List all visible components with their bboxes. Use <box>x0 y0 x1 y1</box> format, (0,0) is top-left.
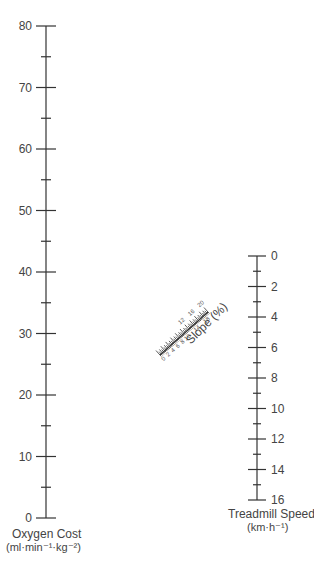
oxygen-tick-label: 50 <box>19 204 33 218</box>
oxygen-tick-label: 60 <box>19 142 33 156</box>
speed-tick-label: 4 <box>271 310 278 324</box>
speed-tick-label: 16 <box>271 493 285 507</box>
speed-tick-label: 2 <box>271 280 278 294</box>
speed-tick-label: 8 <box>271 371 278 385</box>
oxygen-tick-label: 30 <box>19 327 33 341</box>
slope-tick-label: 20 <box>196 299 205 308</box>
oxygen-tick-label: 80 <box>19 19 33 33</box>
oxygen-axis-title: Oxygen Cost <box>12 527 81 541</box>
slope-tick-label: 12 <box>177 316 186 325</box>
oxygen-axis-units: (ml·min⁻¹·kg⁻²) <box>6 541 81 554</box>
slope-tick-label: 16 <box>187 308 196 317</box>
speed-axis-units: (km·h⁻¹) <box>247 521 288 534</box>
speed-tick-label: 6 <box>271 341 278 355</box>
speed-tick-label: 12 <box>271 432 285 446</box>
speed-axis-title: Treadmill Speed <box>228 507 314 521</box>
oxygen-tick-label: 10 <box>19 450 33 464</box>
oxygen-tick-label: 20 <box>19 388 33 402</box>
speed-tick-label: 14 <box>271 463 285 477</box>
speed-tick-label: 0 <box>271 249 278 263</box>
oxygen-tick-label: 40 <box>19 265 33 279</box>
oxygen-tick-label: 0 <box>25 511 32 525</box>
speed-tick-label: 10 <box>271 402 285 416</box>
oxygen-tick-label: 70 <box>19 81 33 95</box>
nomogram: 0102030405060708002468101214160246810141… <box>0 0 314 565</box>
